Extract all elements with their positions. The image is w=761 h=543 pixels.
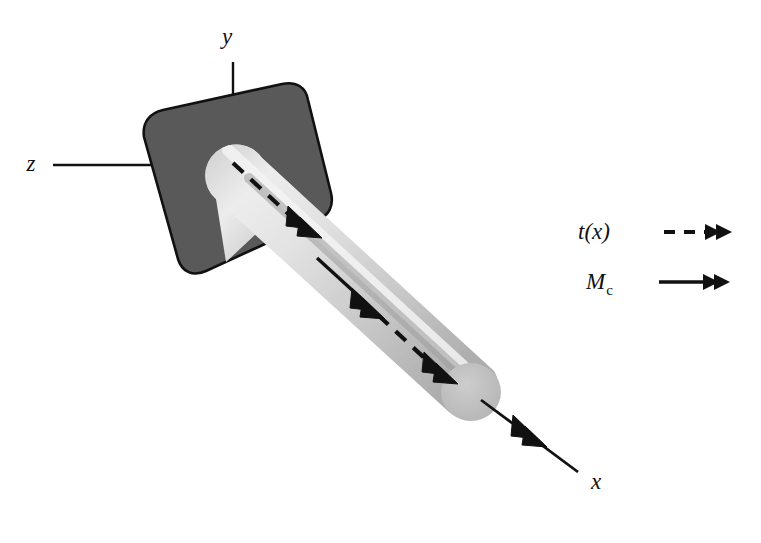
y-axis-label: y — [220, 24, 233, 49]
x-axis-arrowhead-b — [522, 426, 547, 447]
torsion-shaft-figure: y z x t(x) Mc — [0, 0, 761, 543]
legend-item-concentrated-torque: Mc — [585, 269, 730, 298]
x-axis-label: x — [590, 469, 602, 494]
z-axis-label: z — [26, 151, 36, 176]
legend: t(x) Mc — [578, 219, 732, 298]
legend-label-t-of-x: t(x) — [578, 219, 610, 244]
figure-canvas: y z x t(x) Mc — [0, 0, 761, 543]
legend-item-distributed-torque: t(x) — [578, 219, 732, 244]
x-axis-group — [481, 400, 578, 472]
shaft-end-face — [441, 363, 501, 421]
legend-solid-arrowhead-b — [714, 274, 730, 290]
legend-dashed-arrowhead-b — [716, 224, 732, 240]
legend-label-Mc-subscript: c — [606, 282, 613, 298]
legend-label-Mc-main: M — [585, 269, 607, 294]
circular-shaft — [205, 144, 501, 421]
legend-label-Mc: Mc — [585, 269, 613, 298]
